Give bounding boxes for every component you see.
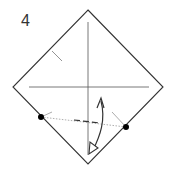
dotted-line xyxy=(41,117,126,127)
crease-mark xyxy=(52,51,62,61)
fold-arrow-head xyxy=(97,98,104,108)
fold-arrow-curve xyxy=(93,101,103,150)
crease-mark-right xyxy=(112,112,126,127)
reference-dot-left xyxy=(38,114,44,120)
origami-diagram xyxy=(0,0,176,172)
fold-arrow-tail xyxy=(89,142,98,154)
reference-dot-right xyxy=(123,124,129,130)
